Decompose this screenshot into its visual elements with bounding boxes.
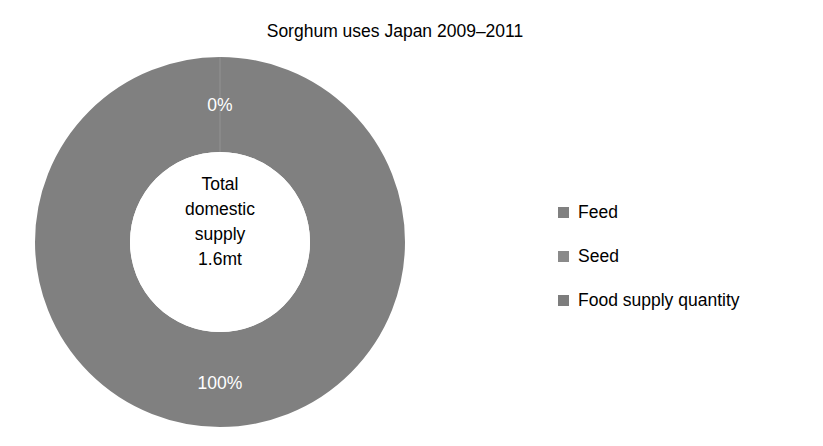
legend-item-feed[interactable]: Feed [558, 190, 813, 234]
chart-canvas: Sorghum uses Japan 2009–2011 0% 100% Tot… [0, 0, 823, 446]
legend-item-food-supply-quantity[interactable]: Food supply quantity [558, 278, 813, 322]
center-caption-total-value: 1.6mt [120, 247, 320, 272]
chart-legend: Feed Seed Food supply quantity [558, 190, 813, 322]
center-caption-line-2: domestic [120, 197, 320, 222]
center-caption-line-3: supply [120, 222, 320, 247]
legend-swatch-icon-seed [558, 251, 569, 262]
legend-swatch-icon-food-supply-quantity [558, 295, 569, 306]
doughnut-chart: 0% 100% Total domestic supply 1.6mt [35, 57, 405, 427]
center-caption-line-1: Total [120, 172, 320, 197]
slice-label-zero-percent: 0% [35, 95, 405, 115]
legend-swatch-icon-feed [558, 207, 569, 218]
legend-label-seed: Seed [578, 246, 619, 266]
chart-title: Sorghum uses Japan 2009–2011 [0, 20, 790, 42]
slice-label-hundred-percent: 100% [35, 373, 405, 393]
doughnut-center-caption: Total domestic supply 1.6mt [120, 172, 320, 272]
legend-item-seed[interactable]: Seed [558, 234, 813, 278]
legend-label-food-supply-quantity: Food supply quantity [578, 290, 740, 310]
legend-label-feed: Feed [578, 202, 618, 222]
